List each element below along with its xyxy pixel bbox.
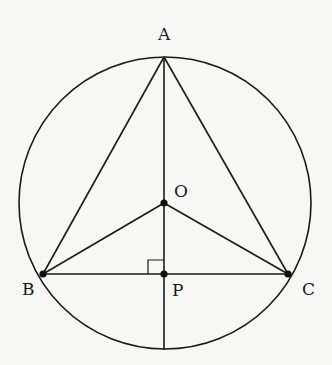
segment-oc [164, 203, 288, 274]
label-c: C [302, 279, 315, 299]
point-o [160, 199, 167, 206]
point-b [39, 270, 46, 277]
label-a: A [157, 24, 171, 44]
point-p [160, 270, 167, 277]
geometry-diagram: A O B C P [0, 0, 332, 365]
label-o: O [174, 181, 188, 201]
segment-ob [43, 203, 164, 274]
label-p: P [172, 280, 183, 300]
label-b: B [22, 279, 35, 299]
point-c [284, 270, 291, 277]
segment-ab [43, 57, 164, 274]
segment-ac [164, 57, 288, 274]
